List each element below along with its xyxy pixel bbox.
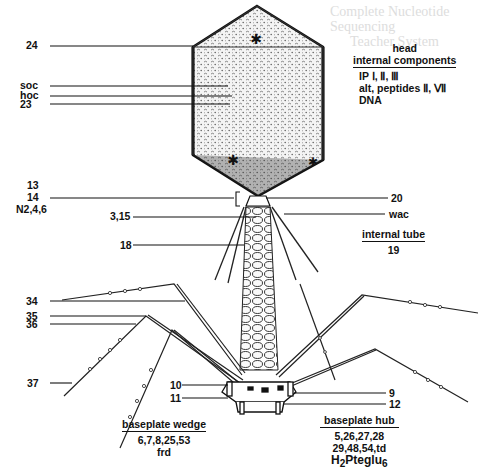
baseplate-wedge-block: baseplate wedge 6,7,8,25,53 frd	[122, 418, 206, 458]
label-37: 37	[27, 378, 39, 389]
label-10: 10	[170, 380, 182, 391]
label-20: 20	[391, 193, 403, 204]
baseplate-wedge-line: frd	[122, 446, 206, 458]
formula-part: Pteglu	[345, 453, 382, 467]
label-13: 13	[27, 180, 39, 191]
internal-tube-title: internal tube	[362, 228, 425, 242]
tail-sheath	[240, 207, 278, 370]
baseplate-hub-line: 5,26,27,28	[320, 430, 399, 442]
head-components-block: head internal components IP Ⅰ, Ⅱ, Ⅲ alt,…	[353, 42, 456, 106]
baseplate-hub-title: baseplate hub	[320, 414, 399, 428]
formula-subscript: 6	[382, 458, 388, 469]
label-wac: wac	[389, 209, 409, 220]
label-14: 14	[27, 192, 39, 203]
svg-text:✱: ✱	[227, 152, 239, 168]
head-subtitle: internal components	[353, 54, 456, 68]
baseplate-wedge-line: 6,7,8,25,53	[122, 434, 206, 446]
baseplate-hub-formula: H2Pteglu6	[320, 454, 399, 470]
internal-tube-value: 19	[362, 244, 425, 256]
baseplate-wedge-title: baseplate wedge	[122, 418, 206, 432]
label-12: 12	[389, 399, 401, 410]
label-36: 36	[26, 319, 38, 330]
head-item: alt, peptides Ⅱ, Ⅶ	[353, 82, 456, 94]
label-18: 18	[120, 240, 132, 251]
internal-tube-block: internal tube 19	[362, 228, 425, 256]
head-item: DNA	[353, 94, 456, 106]
label-11: 11	[170, 393, 181, 404]
svg-text:✱: ✱	[308, 155, 318, 169]
head-item: IP Ⅰ, Ⅱ, Ⅲ	[353, 70, 456, 82]
baseplate	[222, 382, 296, 414]
svg-text:✱: ✱	[250, 31, 262, 47]
label-n246: N2,4,6	[16, 204, 47, 215]
phage-head: ✱ ✱ ✱	[193, 6, 323, 196]
head-title: head	[353, 42, 456, 54]
baseplate-hub-block: baseplate hub 5,26,27,28 29,48,54,td H2P…	[320, 414, 399, 470]
label-34: 34	[26, 296, 38, 307]
label-3-15: 3,15	[110, 211, 130, 222]
label-24: 24	[26, 40, 38, 51]
formula-part: H	[331, 453, 340, 467]
label-23: 23	[20, 99, 32, 110]
